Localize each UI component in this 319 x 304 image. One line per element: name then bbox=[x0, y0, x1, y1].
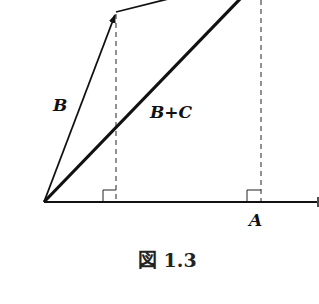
figure-1-3: B B+C A 図 1.3 bbox=[0, 0, 319, 304]
label-a: A bbox=[249, 212, 262, 229]
right-angle-mark-sum bbox=[247, 190, 261, 202]
label-b-plus-c: B+C bbox=[150, 104, 192, 121]
figure-caption: 図 1.3 bbox=[138, 251, 197, 270]
label-b: B bbox=[53, 97, 67, 114]
vector-c-line bbox=[116, 0, 172, 12]
vector-sum-line bbox=[44, 0, 241, 202]
right-angle-mark-b bbox=[103, 190, 116, 202]
